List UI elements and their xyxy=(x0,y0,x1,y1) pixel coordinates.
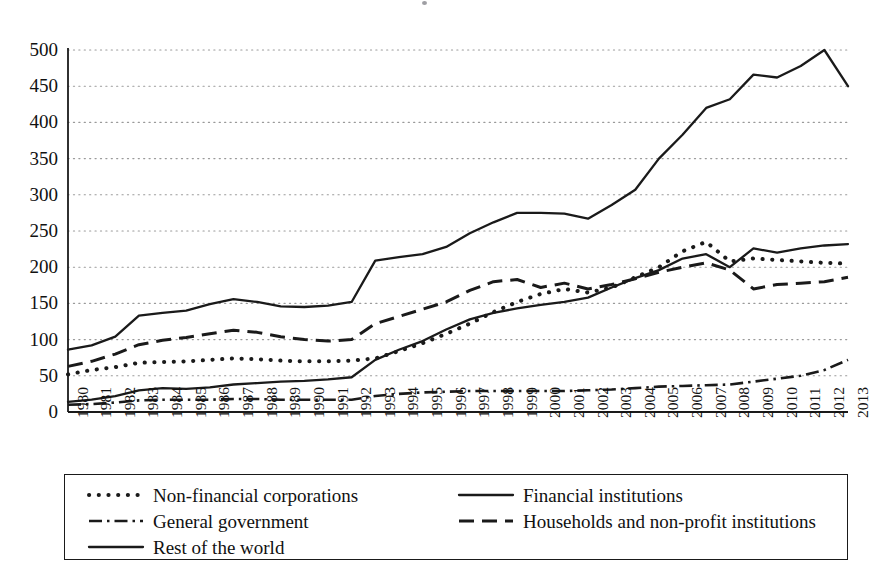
series-line-non-financial-corporations xyxy=(68,242,848,374)
x-tick-label: 1989 xyxy=(287,387,303,418)
x-tick-label: 1990 xyxy=(311,387,327,418)
x-tick-label: 1991 xyxy=(335,387,351,418)
x-tick-label: 1982 xyxy=(122,387,138,418)
x-tick-label: 2006 xyxy=(689,387,705,418)
legend-item-label: General government xyxy=(153,512,309,531)
x-tick-label: 1993 xyxy=(382,387,398,418)
x-tick-label: 2002 xyxy=(595,387,611,418)
series-line-households-and-non-profit-institutions xyxy=(68,263,848,367)
x-tick-label: 1994 xyxy=(405,387,421,418)
x-tick-label: 1995 xyxy=(429,387,445,418)
x-tick-label: 2001 xyxy=(571,387,587,418)
legend-item[interactable]: General government xyxy=(87,509,309,533)
x-tick-label: 2012 xyxy=(831,387,847,418)
x-tick-label: 1983 xyxy=(145,387,161,418)
x-tick-label: 1981 xyxy=(98,387,114,418)
legend-line-sample xyxy=(87,488,145,502)
x-tick-label: 1997 xyxy=(476,387,492,418)
x-tick-label: 2011 xyxy=(807,388,823,418)
x-tick-label: 1992 xyxy=(358,387,374,418)
x-tick-label: 1980 xyxy=(75,387,91,418)
x-tick-label: 2003 xyxy=(618,387,634,418)
legend-item-label: Financial institutions xyxy=(523,486,683,505)
x-tick-label: 1985 xyxy=(193,387,209,418)
legend-item-label: Rest of the world xyxy=(153,538,284,557)
legend-item[interactable]: Financial institutions xyxy=(457,483,683,507)
legend-line-sample xyxy=(457,488,515,502)
legend-item[interactable]: Households and non-profit institutions xyxy=(457,509,816,533)
legend-item-label: Households and non-profit institutions xyxy=(523,512,816,531)
x-tick-label: 2000 xyxy=(547,387,563,418)
legend: Non-financial corporationsFinancial inst… xyxy=(64,474,848,560)
x-tick-label: 2013 xyxy=(855,387,871,418)
x-tick-label: 1986 xyxy=(216,387,232,418)
legend-line-sample xyxy=(87,514,145,528)
series-line-rest-of-the-world xyxy=(68,50,848,350)
legend-item-label: Non-financial corporations xyxy=(153,486,358,505)
x-tick-label: 1996 xyxy=(453,387,469,418)
legend-item[interactable]: Rest of the world xyxy=(87,535,284,559)
x-tick-label: 1987 xyxy=(240,387,256,418)
x-tick-label: 2010 xyxy=(784,387,800,418)
x-tick-label: 1988 xyxy=(264,387,280,418)
x-tick-label: 2008 xyxy=(736,387,752,418)
legend-line-sample xyxy=(457,514,515,528)
x-tick-label: 1999 xyxy=(524,387,540,418)
x-tick-label: 2005 xyxy=(665,387,681,418)
x-tick-label: 1998 xyxy=(500,387,516,418)
x-tick-label: 2009 xyxy=(760,387,776,418)
x-tick-label: 2007 xyxy=(713,387,729,418)
legend-line-sample xyxy=(87,540,145,554)
legend-item[interactable]: Non-financial corporations xyxy=(87,483,358,507)
x-tick-label: 1984 xyxy=(169,387,185,418)
x-tick-label: 2004 xyxy=(642,387,658,418)
